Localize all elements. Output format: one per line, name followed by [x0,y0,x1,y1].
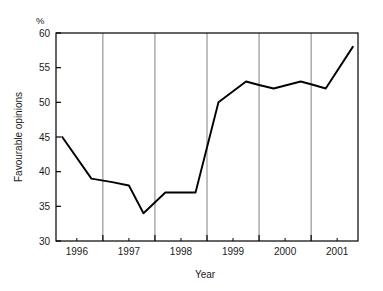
y-tick-label: 35 [39,201,51,212]
x-tick-label: 1998 [170,246,193,257]
chart-container: 30354045505560 199619971998199920002001 … [0,0,383,291]
x-axis-title: Year [195,269,216,280]
y-tick-label: 50 [39,97,51,108]
y-tick-label: 55 [39,62,51,73]
y-tick-label: 45 [39,132,51,143]
x-tick-label: 2001 [326,246,349,257]
y-axis-unit-label: % [36,15,45,26]
x-tick-label: 1999 [222,246,245,257]
x-tick-label: 2000 [274,246,297,257]
y-axis-title: Favourable opinions [13,92,24,182]
y-tick-label: 60 [39,28,51,39]
x-tick-label: 1997 [118,246,141,257]
y-tick-label: 40 [39,166,51,177]
x-tick-label: 1996 [66,246,89,257]
line-chart: 30354045505560 199619971998199920002001 … [0,0,383,291]
y-tick-label: 30 [39,236,51,247]
